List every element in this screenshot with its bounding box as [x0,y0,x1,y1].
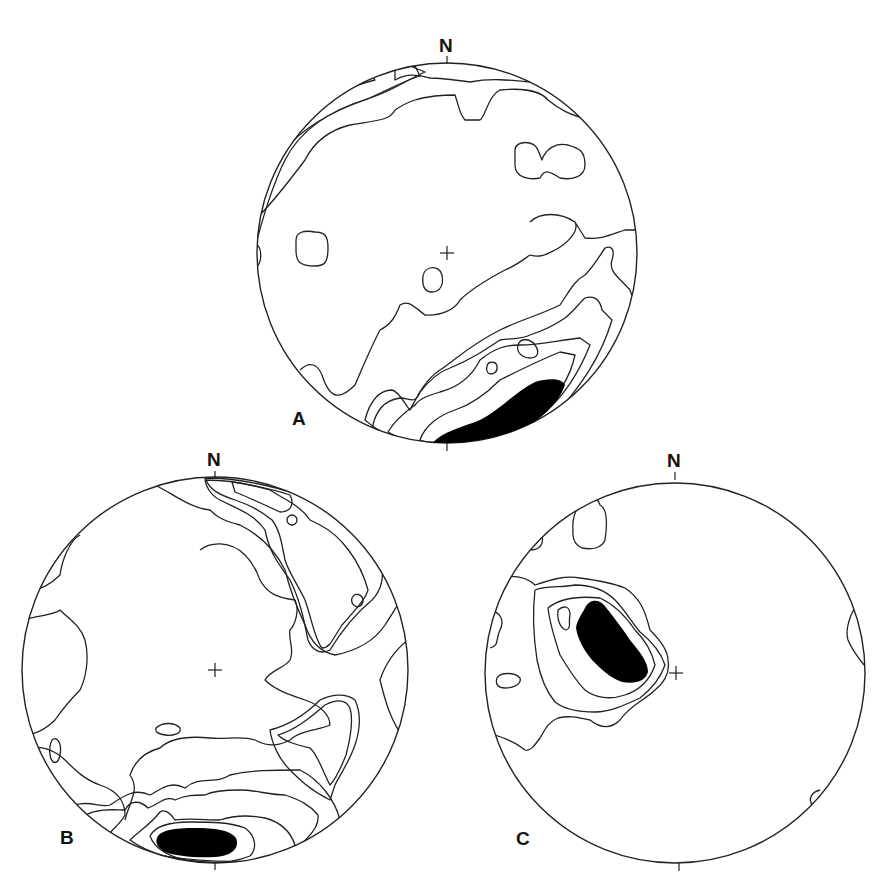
panel-label-c: C [516,828,530,849]
stereonet-panel-b: N B [22,449,408,870]
north-label-a: N [439,35,453,56]
panel-label-a: A [292,408,306,429]
north-label-b: N [207,449,221,470]
stereonet-figure: N A [0,0,881,884]
stereonet-panel-c: N C [485,450,865,871]
panel-label-b: B [60,827,74,848]
north-label-c: N [667,450,681,471]
stereonet-panel-a: N A [257,35,640,451]
